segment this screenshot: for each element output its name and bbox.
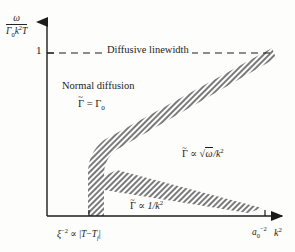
y-axis-label: ω Γ0k2T: [6, 14, 27, 39]
y-axis-label-denominator: Γ0k2T: [6, 25, 27, 39]
inverse-k-squared-law-label: ~Γ ∝ 1/k2: [130, 199, 163, 212]
y-axis-label-numerator: ω: [6, 14, 27, 25]
y-tick-label-one: 1: [36, 45, 42, 57]
gamma-equals-gamma-zero-label: ~Γ = Γ0: [78, 98, 105, 113]
x-tick-label-a0: a0−2: [252, 226, 267, 240]
sqrt-omega-law-label: ~Γ ∝ √ω/k2: [182, 147, 224, 160]
normal-diffusion-label: Normal diffusion: [62, 80, 134, 91]
plot-canvas: [0, 0, 295, 252]
diffusive-linewidth-label: Diffusive linewidth: [104, 44, 192, 55]
x-axis-label: k2: [274, 226, 282, 239]
phase-diagram-figure: ω Γ0k2T 1 Diffusive linewidth Normal dif…: [0, 0, 295, 252]
x-tick-label-xi: ξ−2 ∝ |T−Tf|: [57, 228, 101, 242]
hatched-crossover-band: [88, 48, 276, 216]
